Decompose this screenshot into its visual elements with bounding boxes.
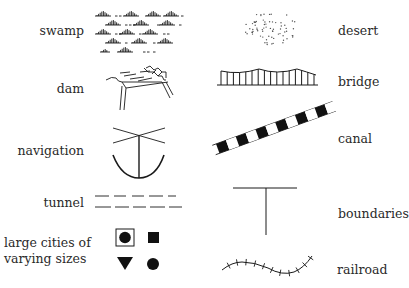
swamp-tufts-icon bbox=[95, 8, 190, 58]
city-markers-icon bbox=[112, 226, 172, 276]
label-canal: canal bbox=[338, 132, 372, 146]
label-railroad: railroad bbox=[337, 263, 387, 277]
suspension-bridge-icon bbox=[215, 66, 320, 90]
label-tunnel: tunnel bbox=[20, 196, 84, 210]
label-navigation: navigation bbox=[10, 144, 84, 158]
city-marker-circle bbox=[147, 258, 159, 270]
label-dam: dam bbox=[20, 82, 84, 96]
label-boundaries: boundaries bbox=[338, 207, 409, 221]
city-marker-triangle bbox=[117, 257, 133, 270]
dashed-parallel-lines-icon bbox=[93, 190, 185, 214]
t-line-icon bbox=[230, 185, 300, 237]
label-swamp: swamp bbox=[20, 24, 84, 38]
city-marker-square bbox=[148, 232, 159, 243]
checkered-band-icon bbox=[210, 106, 335, 161]
dam-icon bbox=[100, 62, 180, 112]
label-bridge: bridge bbox=[338, 75, 379, 89]
label-large-cities-line2: varying sizes bbox=[4, 252, 84, 266]
hatched-curve-icon bbox=[218, 250, 318, 278]
stipple-dots-icon bbox=[240, 8, 300, 53]
city-marker-boxed-circle bbox=[116, 229, 134, 246]
label-large-cities-line1: large cities of bbox=[4, 236, 84, 250]
label-desert: desert bbox=[338, 24, 378, 38]
anchor-icon bbox=[110, 122, 170, 182]
